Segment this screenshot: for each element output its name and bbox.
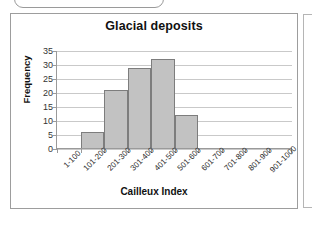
bar [104,90,128,149]
y-axis-tick-labels: 05101520253035 [11,51,53,149]
y-tick-label: 20 [13,88,53,98]
chart-panel: Glacial deposits Frequency 0510152025303… [10,13,298,209]
y-tick-label: 30 [13,60,53,70]
y-tick-label: 15 [13,102,53,112]
y-tick-label: 25 [13,74,53,84]
y-tick-label: 5 [13,130,53,140]
x-axis-label: Cailleux Index [11,186,297,197]
bar-slot [128,51,152,149]
bar [175,115,199,149]
bar-slot [222,51,246,149]
top-rounded-panel-fragment [14,0,164,8]
bar-slot [57,51,81,149]
y-tick-label: 35 [13,46,53,56]
bar [128,68,152,149]
bar-slot [175,51,199,149]
y-tick-label: 0 [13,144,53,154]
chart-title: Glacial deposits [11,19,297,33]
plot-area [57,51,292,149]
bar-slot [151,51,175,149]
y-tick-label: 10 [13,116,53,126]
bar-slot [81,51,105,149]
bar-series [57,51,292,149]
adjacent-panel-edge [303,14,312,208]
bar-slot [198,51,222,149]
bar-slot [104,51,128,149]
bar-slot [245,51,269,149]
bar [151,59,175,149]
bar-slot [269,51,293,149]
